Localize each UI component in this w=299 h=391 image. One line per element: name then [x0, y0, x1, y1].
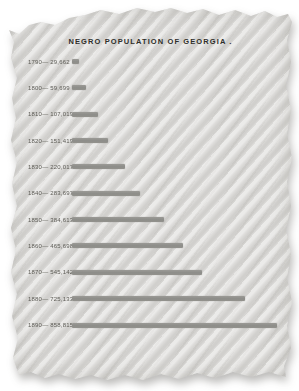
population-bar: [72, 217, 164, 222]
population-bar: [72, 191, 140, 196]
photo-background: NEGRO POPULATION OF GEORGIA . 1790— 29,6…: [0, 0, 299, 391]
chart-paper: NEGRO POPULATION OF GEORGIA . 1790— 29,6…: [7, 6, 294, 383]
chart-row: 1800— 59,699: [28, 82, 86, 93]
row-label: 1820— 151,419: [28, 138, 72, 144]
population-bar: [72, 85, 86, 90]
population-bar: [72, 323, 277, 328]
chart-row: 1850— 384,613: [28, 214, 164, 225]
population-bar: [72, 243, 183, 248]
row-label: 1840— 283,697: [28, 190, 72, 196]
population-bar: [72, 59, 79, 64]
chart-row: 1870— 545,142: [28, 267, 202, 278]
row-label: 1830— 220,017: [28, 164, 72, 170]
bar-chart: 1790— 29,6621800— 59,6991810— 107,019182…: [7, 6, 294, 383]
population-bar: [72, 138, 108, 143]
chart-row: 1790— 29,662: [28, 56, 79, 67]
population-bar: [72, 270, 202, 275]
chart-row: 1810— 107,019: [28, 109, 98, 120]
row-label: 1850— 384,613: [28, 217, 72, 223]
population-bar: [72, 296, 245, 301]
row-label: 1800— 59,699: [28, 85, 72, 91]
chart-row: 1820— 151,419: [28, 135, 108, 146]
row-label: 1810— 107,019: [28, 111, 72, 117]
chart-row: 1840— 283,697: [28, 188, 140, 199]
population-bar: [72, 164, 125, 169]
population-bar: [72, 112, 98, 117]
row-label: 1790— 29,662: [28, 59, 72, 65]
paper-shadow: NEGRO POPULATION OF GEORGIA . 1790— 29,6…: [7, 6, 294, 383]
chart-row: 1890— 858,815: [28, 320, 277, 331]
chart-row: 1830— 220,017: [28, 161, 125, 172]
row-label: 1860— 465,698: [28, 243, 72, 249]
chart-row: 1880— 725,133: [28, 293, 245, 304]
chart-row: 1860— 465,698: [28, 240, 183, 251]
row-label: 1890— 858,815: [28, 322, 72, 328]
row-label: 1880— 725,133: [28, 296, 72, 302]
row-label: 1870— 545,142: [28, 269, 72, 275]
